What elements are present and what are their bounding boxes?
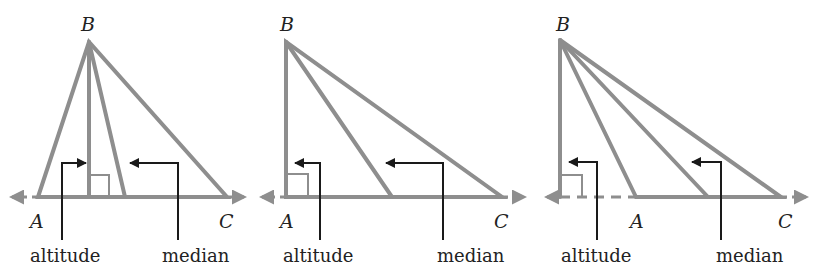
median-label: median bbox=[437, 245, 505, 266]
vertex-label-a: A bbox=[628, 210, 644, 232]
altitude-callout-arrow bbox=[62, 163, 86, 240]
median-label: median bbox=[716, 245, 784, 266]
altitude-label: altitude bbox=[283, 245, 353, 266]
median-segment bbox=[89, 42, 125, 197]
panel-right: ABCaltitudemedian bbox=[262, 13, 524, 266]
vertex-label-b: B bbox=[555, 13, 570, 35]
panel-obtuse: ABCaltitudemedian bbox=[547, 13, 806, 266]
triangle-abc bbox=[286, 42, 502, 197]
altitude-label: altitude bbox=[30, 245, 100, 266]
diagram-canvas: ABCaltitudemedian ABCaltitudemedian ABCa… bbox=[0, 0, 815, 277]
altitude-median-diagram: ABCaltitudemedian ABCaltitudemedian ABCa… bbox=[0, 0, 815, 277]
altitude-label: altitude bbox=[561, 245, 631, 266]
vertex-label-b: B bbox=[279, 13, 294, 35]
triangle-abc bbox=[38, 42, 227, 197]
right-angle-marker bbox=[89, 175, 109, 197]
triangle-abc bbox=[560, 40, 781, 197]
median-callout-arrow bbox=[692, 162, 721, 240]
panel-acute: ABCaltitudemedian bbox=[12, 13, 244, 266]
altitude-callout-arrow bbox=[569, 162, 597, 240]
vertex-label-c: C bbox=[219, 210, 234, 232]
vertex-label-c: C bbox=[778, 210, 793, 232]
vertex-label-c: C bbox=[494, 210, 509, 232]
right-angle-marker bbox=[286, 174, 308, 197]
median-callout-arrow bbox=[386, 163, 443, 240]
median-segment bbox=[560, 40, 708, 197]
right-angle-marker bbox=[560, 175, 582, 197]
vertex-label-a: A bbox=[278, 210, 294, 232]
median-callout-arrow bbox=[130, 163, 178, 240]
vertex-label-a: A bbox=[28, 210, 44, 232]
median-label: median bbox=[162, 245, 230, 266]
vertex-label-b: B bbox=[80, 13, 95, 35]
